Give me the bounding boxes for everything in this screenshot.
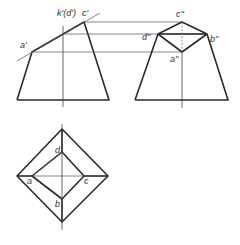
label-b-double-prime: b'' bbox=[210, 34, 219, 44]
top-view-inner-section bbox=[32, 152, 84, 199]
label-b: b bbox=[55, 199, 60, 209]
label-d-double-prime: d'' bbox=[142, 32, 151, 42]
label-c: c bbox=[84, 176, 89, 186]
label-a: a bbox=[27, 176, 32, 186]
label-c-double-prime: c'' bbox=[176, 9, 184, 19]
label-c-prime: c' bbox=[82, 8, 89, 18]
label-a-prime: a' bbox=[20, 40, 27, 50]
cutting-plane-line bbox=[17, 13, 100, 61]
side-view: c'' d'' b'' a'' bbox=[135, 9, 228, 108]
top-view: d a c b bbox=[17, 124, 108, 230]
orthographic-drawing: a' k'(d') c' c'' d'' b'' a'' d a c b bbox=[0, 0, 240, 245]
front-view: a' k'(d') c' bbox=[17, 8, 109, 107]
label-k-d-prime: k'(d') bbox=[57, 8, 76, 18]
label-a-double-prime: a'' bbox=[170, 54, 179, 64]
side-view-section bbox=[158, 34, 207, 52]
